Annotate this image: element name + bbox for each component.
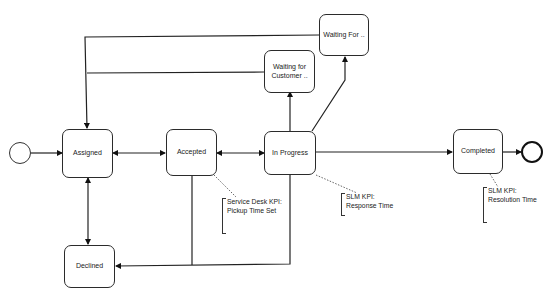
association-resolution bbox=[490, 174, 498, 187]
task-label: Completed bbox=[461, 147, 495, 156]
task-label: In Progress bbox=[272, 149, 308, 158]
annotation-resolution-time: SLM KPI: Resolution Time bbox=[483, 187, 551, 223]
annotation-line: SLM KPI: bbox=[488, 187, 551, 196]
end-event[interactable] bbox=[521, 141, 543, 163]
edge-waitingcustomer-assigned bbox=[87, 72, 264, 73]
association-pickup bbox=[214, 175, 236, 197]
task-label: Declined bbox=[76, 262, 103, 271]
annotation-line: Resolution Time bbox=[488, 196, 551, 205]
task-waiting-for-customer[interactable]: Waiting for Customer .. bbox=[264, 50, 315, 93]
association-response bbox=[316, 175, 357, 193]
task-label: Assigned bbox=[73, 149, 102, 158]
task-label: Waiting For .. bbox=[323, 31, 364, 40]
task-completed[interactable]: Completed bbox=[453, 129, 503, 174]
task-assigned[interactable]: Assigned bbox=[62, 129, 113, 178]
task-waiting-for[interactable]: Waiting For .. bbox=[319, 14, 369, 56]
start-event[interactable] bbox=[9, 142, 31, 164]
task-label: Waiting for Customer .. bbox=[267, 63, 312, 81]
task-in-progress[interactable]: In Progress bbox=[264, 131, 316, 175]
annotation-line: Service Desk KPI: bbox=[227, 198, 302, 207]
task-declined[interactable]: Declined bbox=[64, 245, 115, 288]
task-accepted[interactable]: Accepted bbox=[166, 129, 217, 176]
annotation-line: Pickup Time Set bbox=[227, 207, 302, 216]
annotation-pickup-time: Service Desk KPI: Pickup Time Set bbox=[222, 198, 302, 234]
annotation-response-time: SLM KPI: Response Time bbox=[341, 193, 411, 216]
annotation-line: SLM KPI: bbox=[346, 193, 411, 202]
edge-inprogress-waitingfor bbox=[312, 57, 345, 131]
task-label: Accepted bbox=[177, 148, 206, 157]
annotation-line: Response Time bbox=[346, 202, 411, 211]
